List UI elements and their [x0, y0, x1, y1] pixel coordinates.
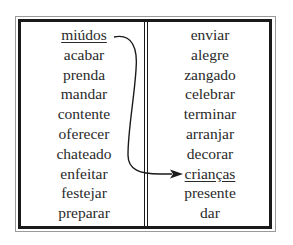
curved-arrow-icon — [0, 0, 293, 245]
